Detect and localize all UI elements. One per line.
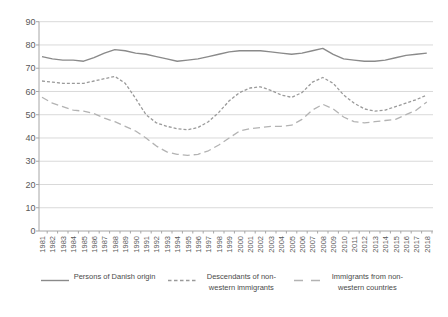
legend-item-danish-origin: Persons of Danish origin	[41, 272, 156, 285]
x-axis-year-label: 2011	[350, 236, 359, 252]
x-axis-year-label: 1984	[69, 236, 78, 253]
chart-frame: 0102030405060708090198119821983198419851…	[0, 0, 448, 317]
x-axis-year-label: 1990	[132, 236, 141, 253]
y-axis-tick-label: 50	[25, 110, 35, 120]
x-axis-year-label: 1993	[163, 236, 172, 253]
legend-line-short-dash-sample	[168, 276, 196, 285]
x-axis-year-label: 1987	[100, 236, 109, 253]
legend-label-descendants: Descendants of non-western immigrants	[201, 272, 281, 293]
employment-line-chart: 0102030405060708090198119821983198419851…	[0, 0, 448, 272]
x-axis-year-label: 2008	[319, 236, 328, 253]
x-axis-year-label: 2005	[288, 236, 297, 253]
legend-label-immigrants: Immigrants from non-western countries	[327, 272, 407, 293]
x-axis-year-label: 2014	[381, 236, 390, 253]
legend-item-descendants: Descendants of non-western immigrants	[168, 272, 281, 293]
legend-line-solid-sample	[41, 276, 69, 285]
x-axis-year-label: 2013	[371, 236, 380, 253]
x-axis-year-label: 1988	[111, 236, 120, 253]
x-axis-year-label: 1981	[38, 236, 47, 253]
x-axis-year-label: 2000	[236, 236, 245, 253]
legend-line-long-dash-sample	[294, 276, 322, 285]
x-axis-year-label: 1992	[152, 236, 161, 253]
y-axis-tick-label: 20	[25, 180, 35, 190]
x-axis-year-label: 2006	[298, 236, 307, 253]
chart-legend: Persons of Danish origin Descendants of …	[0, 272, 448, 293]
x-axis-year-label: 2012	[360, 236, 369, 253]
x-axis-year-label: 2003	[267, 236, 276, 253]
x-axis-year-label: 1999	[225, 236, 234, 253]
x-axis-year-label: 2009	[329, 236, 338, 253]
legend-label-danish-origin: Persons of Danish origin	[74, 272, 156, 283]
x-axis-year-label: 1982	[48, 236, 57, 253]
y-axis-tick-label: 0	[30, 226, 35, 236]
x-axis-year-label: 2007	[308, 236, 317, 253]
y-axis-tick-label: 40	[25, 133, 35, 143]
x-axis-year-label: 2004	[277, 236, 286, 253]
x-axis-year-label: 2016	[402, 236, 411, 253]
x-axis-year-label: 2001	[246, 236, 255, 253]
x-axis-year-label: 1991	[142, 236, 151, 253]
x-axis-year-label: 1985	[80, 236, 89, 253]
x-axis-year-label: 1995	[184, 236, 193, 253]
x-axis-year-label: 2010	[340, 236, 349, 253]
x-axis-year-label: 2018	[423, 236, 432, 253]
y-axis-tick-label: 30	[25, 156, 35, 166]
y-axis-tick-label: 90	[25, 17, 35, 27]
x-axis-year-label: 1986	[90, 236, 99, 253]
x-axis-year-label: 2017	[412, 236, 421, 253]
y-axis-tick-label: 80	[25, 40, 35, 50]
series-line-2	[42, 97, 427, 155]
x-axis-year-label: 1996	[194, 236, 203, 253]
y-axis-tick-label: 10	[25, 203, 35, 213]
x-axis-year-label: 2002	[256, 236, 265, 253]
y-axis-tick-label: 60	[25, 87, 35, 97]
x-axis-year-label: 1994	[173, 236, 182, 253]
x-axis-year-label: 1997	[204, 236, 213, 253]
x-axis-year-label: 2015	[392, 236, 401, 253]
x-axis-year-label: 1983	[59, 236, 68, 253]
series-line-0	[42, 48, 427, 61]
legend-item-immigrants: Immigrants from non-western countries	[294, 272, 407, 293]
x-axis-year-label: 1998	[215, 236, 224, 253]
y-axis-tick-label: 70	[25, 63, 35, 73]
x-axis-year-label: 1989	[121, 236, 130, 253]
